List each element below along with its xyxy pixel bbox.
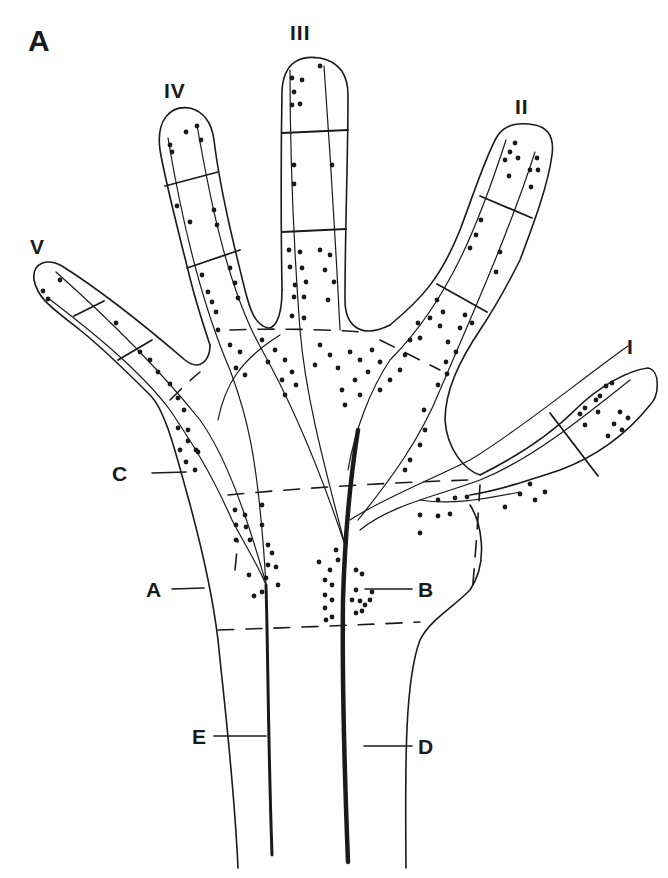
hand-diagram: A III IV II V I C A B E D: [0, 0, 668, 878]
label-leaders: [152, 472, 412, 746]
ulnar-nerve-trunk: [266, 585, 272, 855]
region-label-D: D: [418, 736, 433, 757]
finger-crease-lines: [74, 130, 598, 476]
finger-label-III: III: [290, 22, 311, 43]
region-label-B: B: [418, 579, 433, 600]
finger-label-IV: IV: [164, 80, 186, 101]
sensory-dots: [41, 64, 631, 623]
median-nerve-trunk: [343, 430, 358, 862]
finger-label-II: II: [515, 96, 529, 117]
region-label-E: E: [192, 726, 206, 747]
hand-drawing: [0, 0, 668, 878]
panel-label: A: [28, 26, 50, 56]
digital-nerve-lines: [48, 66, 630, 585]
region-label-A: A: [146, 579, 161, 600]
finger-label-V: V: [30, 236, 45, 257]
dashed-boundaries: [170, 329, 480, 630]
finger-label-I: I: [627, 336, 634, 357]
region-label-C: C: [112, 463, 127, 484]
